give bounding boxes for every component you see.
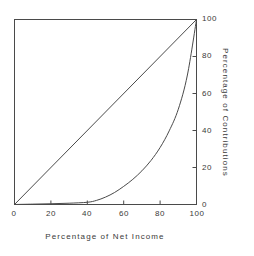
x-axis-title: Percentage of Net Income bbox=[0, 232, 210, 241]
x-tick-label-0: 0 bbox=[11, 210, 16, 218]
x-tick-label-60: 60 bbox=[119, 210, 129, 218]
y-tick-label-100: 100 bbox=[202, 15, 217, 23]
x-tick-label-100: 100 bbox=[189, 210, 204, 218]
y-tick-label-80: 80 bbox=[202, 52, 212, 60]
plot-frame bbox=[14, 19, 197, 205]
x-tick-label-20: 20 bbox=[46, 210, 56, 218]
lorenz-curve-figure: 0 20 40 60 80 100 0 20 40 60 80 100 Perc… bbox=[0, 0, 254, 256]
y-tick-label-20: 20 bbox=[202, 164, 212, 172]
y-axis-title: Percentage of Contributions bbox=[219, 20, 231, 205]
x-tick-label-40: 40 bbox=[82, 210, 92, 218]
y-tick-label-40: 40 bbox=[202, 127, 212, 135]
y-tick-label-60: 60 bbox=[202, 90, 212, 98]
y-tick-label-0: 0 bbox=[202, 201, 207, 209]
x-tick-label-80: 80 bbox=[155, 210, 165, 218]
